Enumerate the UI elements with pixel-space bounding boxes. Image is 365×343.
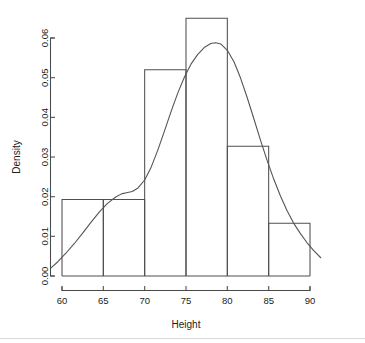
x-tick-label-70: 70: [139, 295, 150, 306]
x-tick-label-60: 60: [57, 295, 68, 306]
y-axis-title: Density: [11, 140, 22, 173]
y-tick-label-6: 0.06: [39, 29, 50, 48]
chart-background: [0, 0, 365, 343]
density-histogram-chart: 0.00 0.01 0.02 0.03 0.04 0.05 0.06 Densi…: [0, 0, 365, 343]
x-tick-label-65: 65: [98, 295, 109, 306]
x-tick-label-80: 80: [222, 295, 233, 306]
y-tick-label-3: 0.03: [39, 148, 50, 167]
x-tick-label-85: 85: [263, 295, 274, 306]
x-axis-title: Height: [172, 319, 201, 330]
x-tick-label-90: 90: [305, 295, 316, 306]
y-tick-label-2: 0.02: [39, 187, 50, 206]
histogram-figure: 0.00 0.01 0.02 0.03 0.04 0.05 0.06 Densi…: [0, 0, 365, 343]
x-tick-label-75: 75: [181, 295, 192, 306]
y-tick-label-4: 0.04: [39, 108, 50, 127]
y-tick-label-1: 0.01: [39, 227, 50, 246]
y-tick-label-0: 0.00: [39, 267, 50, 286]
y-tick-label-5: 0.05: [39, 68, 50, 87]
